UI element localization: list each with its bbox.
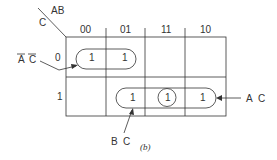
karnaugh-map-diagram: AB C 00 01 11 10 0 1 1 1 1 1 1 A C B C A…	[0, 0, 277, 160]
cell-r0-c00: 1	[89, 52, 95, 63]
cell-r1-c10: 1	[200, 92, 206, 103]
column-variable-label: AB	[51, 5, 65, 16]
column-header-11: 11	[161, 24, 172, 35]
arrowhead-icon	[129, 108, 134, 115]
row-variable-label: C	[39, 17, 46, 28]
cell-r1-c01: 1	[130, 92, 136, 103]
column-header-10: 10	[200, 24, 212, 35]
row-header-0: 0	[55, 52, 61, 63]
annotation-c-bar: C	[29, 54, 36, 65]
column-header-00: 00	[80, 24, 92, 35]
cell-r1-c11: 1	[165, 92, 171, 103]
annotation-c2: C	[258, 93, 265, 104]
annotation-a: A	[246, 93, 253, 104]
annotation-b: B	[111, 136, 118, 147]
figure-caption: (b)	[140, 142, 151, 152]
column-header-01: 01	[120, 24, 132, 35]
arrowhead-icon	[71, 64, 78, 69]
row-header-1: 1	[57, 91, 63, 102]
arrowhead-icon	[216, 95, 222, 101]
annotation-a-bar: A	[18, 54, 25, 65]
annotation-c: C	[123, 136, 130, 147]
cell-r0-c01: 1	[122, 52, 128, 63]
